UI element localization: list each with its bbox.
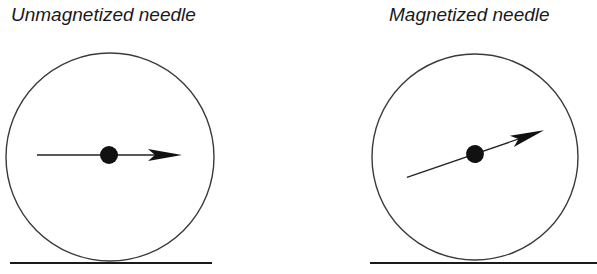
left-pivot-dot <box>100 146 118 164</box>
left-needle <box>37 146 182 164</box>
right-pivot-dot <box>464 143 487 166</box>
right-needle-arrowhead-icon <box>510 125 546 147</box>
unmagnetized-panel <box>6 53 214 263</box>
diagram-canvas <box>0 0 597 274</box>
magnetized-panel <box>370 54 597 263</box>
right-needle <box>404 122 547 186</box>
